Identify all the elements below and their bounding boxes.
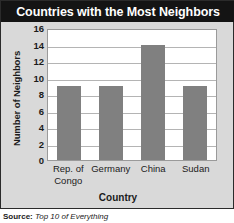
bar-slot bbox=[132, 30, 174, 160]
chart-title-banner: Countries with the Most Neighbors bbox=[1, 1, 234, 22]
y-axis-tick-label: 12 bbox=[33, 57, 44, 67]
chart-figure: Countries with the Most Neighbors Number… bbox=[0, 0, 234, 223]
chart-title: Countries with the Most Neighbors bbox=[16, 5, 220, 19]
x-axis-tick-label-line: Rep. of bbox=[47, 163, 90, 175]
y-axis-title: Number of Neighbors bbox=[9, 35, 24, 161]
y-axis-tick-label: 10 bbox=[33, 74, 44, 84]
chart-frame: Countries with the Most Neighbors Number… bbox=[0, 0, 234, 209]
bar bbox=[99, 86, 123, 160]
y-axis-tick-label: 8 bbox=[39, 90, 44, 100]
x-axis-tick-label-line: Germany bbox=[90, 163, 133, 175]
bar-series bbox=[48, 30, 216, 160]
source-value: Top 10 of Everything bbox=[35, 212, 108, 221]
x-axis-tick-label: Germany bbox=[90, 163, 133, 189]
y-axis-tick-label: 16 bbox=[33, 24, 44, 34]
bar-slot bbox=[90, 30, 132, 160]
x-axis-tick-label-line: Congo bbox=[47, 175, 90, 187]
source-label: Source: bbox=[3, 212, 33, 221]
x-axis-tick-label: China bbox=[132, 163, 175, 189]
y-axis-tick-label: 0 bbox=[39, 156, 44, 166]
bar-slot bbox=[174, 30, 216, 160]
y-axis-tick-label: 4 bbox=[39, 123, 44, 133]
y-axis-tick-label: 6 bbox=[39, 107, 44, 117]
x-axis-tick-label: Sudan bbox=[175, 163, 218, 189]
plot-area bbox=[47, 29, 217, 161]
bar-slot bbox=[48, 30, 90, 160]
bar bbox=[183, 86, 207, 160]
y-axis-tick-labels: 1614121086420 bbox=[25, 29, 44, 161]
x-axis-tick-labels: Rep. ofCongoGermanyChinaSudan bbox=[47, 163, 217, 189]
y-axis-tick-label: 2 bbox=[39, 140, 44, 150]
source-note: Source: Top 10 of Everything bbox=[3, 212, 108, 221]
x-axis-tick-label-line: China bbox=[132, 163, 175, 175]
x-axis-tick-label: Rep. ofCongo bbox=[47, 163, 90, 189]
bar bbox=[141, 45, 165, 161]
y-axis-title-text: Number of Neighbors bbox=[11, 50, 22, 145]
bar bbox=[57, 86, 81, 160]
x-axis-tick-label-line: Sudan bbox=[175, 163, 218, 175]
x-axis-title: Country bbox=[1, 192, 234, 203]
y-axis-tick-label: 14 bbox=[33, 41, 44, 51]
